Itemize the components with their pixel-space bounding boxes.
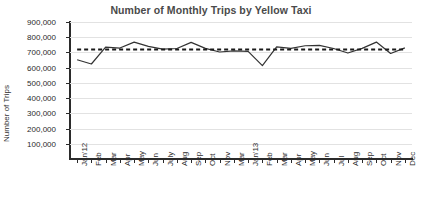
x-tick-mark — [234, 159, 235, 163]
x-tick-mark — [148, 159, 149, 163]
y-tick-label: 900,000 — [8, 18, 56, 27]
x-tick-mark — [177, 159, 178, 163]
x-tick-mark — [277, 159, 278, 163]
x-tick-mark — [248, 159, 249, 163]
x-tick-mark — [106, 159, 107, 163]
y-tick-label: 700,000 — [8, 48, 56, 57]
x-tick-mark — [77, 159, 78, 163]
x-tick-mark — [362, 159, 363, 163]
chart-title: Number of Monthly Trips by Yellow Taxi — [0, 4, 422, 16]
x-tick-mark — [391, 159, 392, 163]
y-tick-label: 100,000 — [8, 140, 56, 149]
x-tick-mark — [262, 159, 263, 163]
series-layer — [70, 22, 412, 159]
x-tick-mark — [376, 159, 377, 163]
y-tick-label: 800,000 — [8, 33, 56, 42]
chart-screenshot: Number of Monthly Trips by Yellow Taxi N… — [0, 0, 422, 204]
x-tick-mark — [334, 159, 335, 163]
data-line — [77, 42, 405, 66]
x-tick-mark — [205, 159, 206, 163]
y-tick-label: 400,000 — [8, 94, 56, 103]
y-tick-label: 600,000 — [8, 64, 56, 73]
x-tick-mark — [291, 159, 292, 163]
x-tick-mark — [319, 159, 320, 163]
y-tick-label: 200,000 — [8, 125, 56, 134]
x-tick-mark — [91, 159, 92, 163]
plot-area: 900,000800,000700,000600,000500,000400,0… — [70, 22, 412, 159]
x-tick-mark — [163, 159, 164, 163]
x-tick-mark — [120, 159, 121, 163]
y-tick-label: 500,000 — [8, 79, 56, 88]
y-tick-label: 300,000 — [8, 109, 56, 118]
x-tick-mark — [405, 159, 406, 163]
x-tick-mark — [348, 159, 349, 163]
x-tick-mark — [134, 159, 135, 163]
x-tick-mark — [191, 159, 192, 163]
x-tick-mark — [220, 159, 221, 163]
x-tick-mark — [305, 159, 306, 163]
